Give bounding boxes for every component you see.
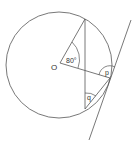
circle <box>6 12 112 118</box>
label-angle-q: q <box>87 94 91 102</box>
angle-arc-80 <box>72 42 80 68</box>
circle-diagram: O 80° p q <box>0 0 133 147</box>
label-angle-p: p <box>105 69 109 77</box>
tangent-line <box>89 20 131 140</box>
label-angle-80: 80° <box>66 57 77 64</box>
label-center: O <box>51 63 57 72</box>
